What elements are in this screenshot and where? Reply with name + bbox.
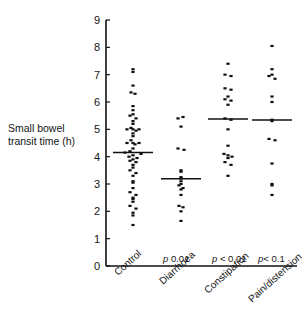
- data-point: [131, 128, 134, 130]
- data-point: [267, 138, 270, 140]
- y-tick-label: 8: [94, 41, 100, 53]
- data-point: [226, 95, 229, 97]
- data-point: [137, 142, 140, 144]
- data-point: [226, 63, 229, 65]
- data-point: [273, 139, 276, 141]
- data-point: [127, 156, 130, 158]
- data-point: [125, 128, 128, 130]
- y-tick-label: 0: [94, 260, 100, 272]
- data-point: [229, 75, 232, 77]
- data-point: [226, 104, 229, 106]
- data-point: [131, 175, 134, 177]
- data-point: [226, 128, 229, 130]
- data-point: [177, 184, 180, 186]
- data-point: [179, 126, 182, 128]
- x-axis-label-control: Control: [112, 248, 143, 278]
- data-point: [131, 123, 134, 125]
- data-point: [131, 154, 134, 156]
- data-point: [137, 128, 140, 130]
- data-point: [179, 171, 182, 173]
- data-point: [134, 194, 137, 196]
- data-point: [129, 91, 132, 93]
- data-point: [229, 89, 232, 91]
- y-tick-label: 7: [94, 69, 100, 81]
- data-point: [129, 139, 132, 141]
- y-tick-label: 6: [94, 96, 100, 108]
- data-point: [131, 71, 134, 73]
- y-tick-label: 4: [94, 151, 100, 163]
- data-point: [134, 130, 137, 132]
- data-point: [131, 224, 134, 226]
- data-point: [226, 145, 229, 147]
- data-point: [134, 208, 137, 210]
- data-point: [179, 210, 182, 212]
- data-point: [128, 115, 131, 117]
- data-point: [131, 109, 134, 111]
- data-point: [270, 184, 273, 186]
- data-point: [226, 175, 229, 177]
- data-point: [128, 169, 131, 171]
- data-point: [226, 154, 229, 156]
- data-point: [131, 147, 134, 149]
- data-point: [131, 164, 134, 166]
- data-point: [131, 135, 134, 137]
- data-point: [179, 220, 182, 222]
- data-point: [176, 147, 179, 149]
- data-point: [131, 187, 134, 189]
- data-point: [230, 156, 233, 158]
- y-tick-label: 1: [94, 233, 100, 245]
- series-control: [113, 68, 153, 226]
- data-point: [267, 75, 270, 77]
- data-point: [131, 113, 134, 115]
- data-point: [128, 191, 131, 193]
- data-point: [270, 45, 273, 47]
- data-point: [179, 194, 182, 196]
- series-diarrhoea: [161, 116, 201, 222]
- data-point: [131, 167, 134, 169]
- data-point: [270, 68, 273, 70]
- data-point: [128, 205, 131, 207]
- data-point: [270, 101, 273, 103]
- scatter-plot: 0123456789p 0.01p < 0.01p< 0.1ControlDia…: [0, 0, 302, 332]
- data-point: [131, 158, 134, 160]
- data-point: [177, 205, 180, 207]
- data-point: [181, 206, 184, 208]
- data-point: [133, 143, 136, 145]
- data-point: [270, 162, 273, 164]
- y-tick-label: 3: [94, 178, 100, 190]
- data-point: [133, 93, 136, 95]
- data-point: [223, 87, 226, 89]
- y-tick-label: 2: [94, 205, 100, 217]
- data-point: [179, 188, 182, 190]
- data-point: [128, 160, 131, 162]
- series-constipation: [208, 63, 248, 177]
- data-point: [131, 214, 134, 216]
- data-point: [131, 105, 134, 107]
- data-point: [131, 212, 134, 214]
- y-tick-label: 9: [94, 14, 100, 26]
- data-point: [273, 78, 276, 80]
- data-point: [223, 98, 226, 100]
- data-point: [135, 157, 138, 159]
- y-tick-label: 5: [94, 123, 100, 135]
- series-pain-distension: [252, 45, 292, 196]
- data-point: [131, 201, 134, 203]
- data-point: [131, 85, 134, 87]
- data-point: [131, 182, 134, 184]
- data-point: [131, 68, 134, 70]
- data-point: [134, 117, 137, 119]
- data-point: [176, 117, 179, 119]
- data-point: [125, 142, 128, 144]
- data-point: [131, 132, 134, 134]
- data-point: [134, 172, 137, 174]
- data-point: [226, 157, 229, 159]
- data-point: [222, 153, 225, 155]
- data-point: [134, 161, 137, 163]
- data-point: [179, 180, 182, 182]
- p-value-annotation: p< 0.1: [257, 253, 285, 264]
- data-point: [131, 120, 134, 122]
- data-point: [270, 74, 273, 76]
- data-point: [229, 100, 232, 102]
- data-point: [270, 95, 273, 97]
- data-point: [131, 198, 134, 200]
